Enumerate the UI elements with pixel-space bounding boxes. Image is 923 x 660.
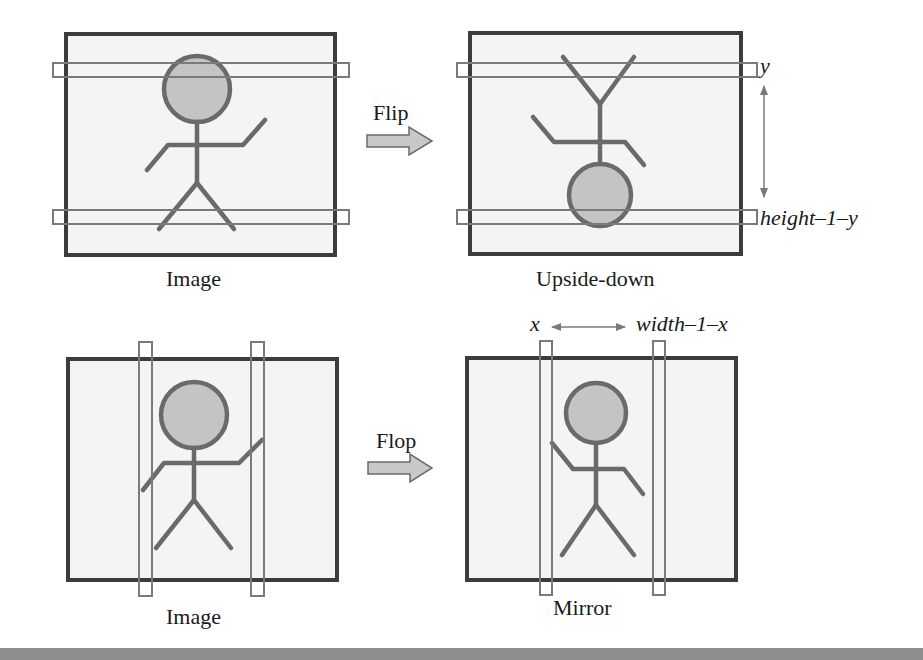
- annotation-y: y: [760, 53, 770, 79]
- annotation-width-1-x: width–1–x: [636, 311, 728, 337]
- bottom-border-bar: [0, 648, 923, 660]
- flop-label: Flop: [376, 428, 416, 454]
- caption-bottom-left: Image: [166, 604, 221, 630]
- flop-arrow-icon: [368, 454, 432, 482]
- panel-bottom-right-mirror: [467, 327, 736, 595]
- caption-bottom-right: Mirror: [553, 595, 612, 621]
- flip-arrow-icon: [367, 127, 432, 155]
- annotation-height-1-y: height–1–y: [760, 205, 858, 231]
- caption-top-right: Upside-down: [536, 266, 655, 292]
- panel-top-left-image: [53, 34, 349, 255]
- flip-flop-diagram: [0, 0, 923, 660]
- annotation-x: x: [530, 311, 540, 337]
- panel-top-right-upside-down: [457, 33, 764, 254]
- flip-label: Flip: [373, 100, 408, 126]
- caption-top-left: Image: [166, 266, 221, 292]
- panel-bottom-left-image: [68, 342, 337, 596]
